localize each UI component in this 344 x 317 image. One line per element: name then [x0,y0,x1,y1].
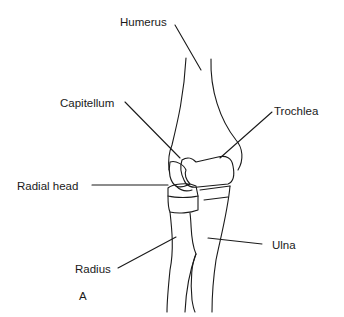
panel-label: A [79,291,87,303]
humerus-label: Humerus [120,17,167,29]
radius-ulna-cross [185,254,196,312]
ulna-leader [208,238,262,244]
bone-drawing [0,0,344,317]
humerus-leader [175,25,201,70]
radial-head-band [168,196,198,213]
humerus-outline-right [211,59,242,170]
radius-leader [118,237,176,268]
radius-label: Radius [75,264,111,276]
ulna-outline-right [212,186,230,312]
humerus-outline [169,58,186,170]
trochlea-leader [220,112,272,158]
capitellum-leader [125,102,180,158]
radius-outline-left [167,212,172,312]
ulna-label: Ulna [272,240,296,252]
trochlea-label: Trochlea [274,106,318,118]
capitellum-outline [169,162,190,187]
radial-head-label: Radial head [17,181,78,193]
ulna-inner [204,197,228,200]
capitellum-label: Capitellum [60,98,114,110]
